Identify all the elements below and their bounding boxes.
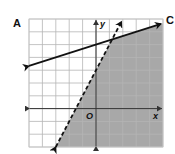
x-axis-label: x [152,111,159,121]
origin-label: O [86,111,93,121]
inequality-graph: y x O [0,0,175,154]
y-axis-label: y [99,19,106,29]
